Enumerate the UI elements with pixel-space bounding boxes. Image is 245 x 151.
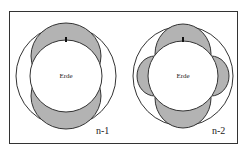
mode-label: n-2 [212,125,225,136]
earth-label: Erde [176,72,189,80]
earth-label: Erde [59,72,72,80]
diagram-svg [0,0,245,151]
mode-label: n-1 [96,125,109,136]
marker-tick [65,37,67,42]
marker-tick [182,37,184,42]
